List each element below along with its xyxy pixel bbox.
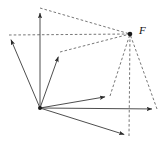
guide-E-F [130,34,157,109]
diagram-canvas: F [0,0,165,149]
solid-vectors-group [11,13,152,134]
guide-B-F [9,34,130,35]
vector-O-E [40,108,152,109]
vertex-dot-F [128,32,133,37]
vertex-dots-group [38,32,132,110]
guide-G-F [129,34,130,136]
vertex-dot-O [38,106,42,110]
label-F: F [138,24,146,36]
guide-A-F [40,8,130,34]
point-labels-group: F [138,24,146,36]
dashed-guides-group [9,8,157,136]
vector-O-C [40,57,58,108]
vector-O-G [40,108,124,134]
guide-C-F [60,34,130,52]
vector-O-D [40,97,105,108]
vector-diagram-figure: F [0,0,165,149]
guide-D-F [110,34,130,96]
vector-O-B [11,40,40,108]
